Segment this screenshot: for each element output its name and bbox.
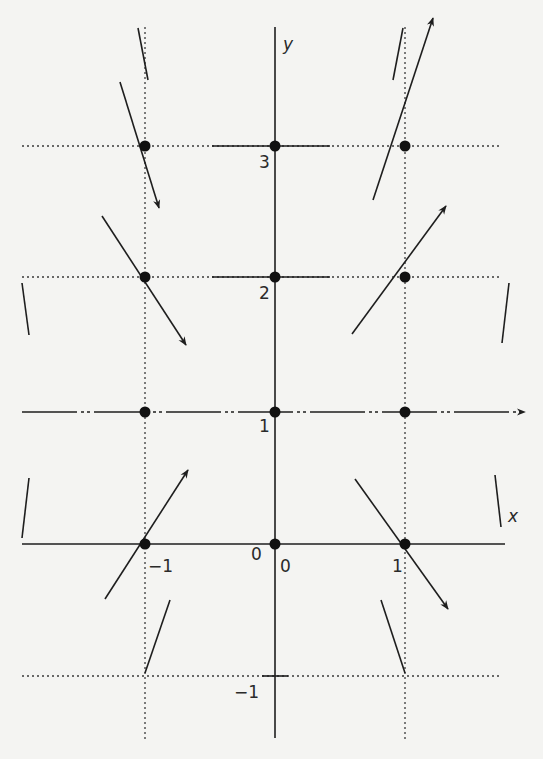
slope-arrow xyxy=(105,470,188,599)
grid-point-dot xyxy=(400,407,411,418)
tick-label: 0 xyxy=(251,544,262,564)
slope-segment xyxy=(22,478,29,538)
tick-label: −1 xyxy=(148,556,173,576)
tick-label: 1 xyxy=(259,416,270,436)
grid-point-dot xyxy=(400,141,411,152)
slope-segments xyxy=(22,28,509,673)
tick-label: 0 xyxy=(280,556,291,576)
slope-segment xyxy=(502,283,509,343)
tick-label: 3 xyxy=(259,152,270,172)
grid-point-dot xyxy=(140,407,151,418)
grid-point-dot xyxy=(270,272,281,283)
slope-segment xyxy=(393,28,403,80)
slope-arrow xyxy=(120,82,159,208)
grid-point-dot xyxy=(140,141,151,152)
slope-segment xyxy=(138,28,148,80)
y-axis-label: y xyxy=(282,34,294,54)
direction-field-diagram: 32100−11−1 x y xyxy=(0,0,543,759)
x-axis-label: x xyxy=(507,506,519,526)
grid-point-dot xyxy=(400,539,411,550)
grid-point-dot xyxy=(270,141,281,152)
tick-label: 2 xyxy=(259,283,270,303)
slope-arrow xyxy=(373,18,433,200)
grid-point-dot xyxy=(140,272,151,283)
slope-segment xyxy=(22,283,29,335)
dotted-grid xyxy=(22,27,502,740)
grid-point-dot xyxy=(400,272,411,283)
grid-point-dot xyxy=(140,539,151,550)
slope-segment xyxy=(495,475,501,527)
slope-segment xyxy=(381,600,405,673)
grid-point-dot xyxy=(270,407,281,418)
axes xyxy=(22,27,505,738)
plot-area: 32100−11−1 x y xyxy=(0,0,543,759)
grid-point-dot xyxy=(270,539,281,550)
slope-arrow xyxy=(352,206,446,334)
slope-segment xyxy=(145,600,170,673)
tick-label: 1 xyxy=(392,556,403,576)
tick-label: −1 xyxy=(234,682,259,702)
